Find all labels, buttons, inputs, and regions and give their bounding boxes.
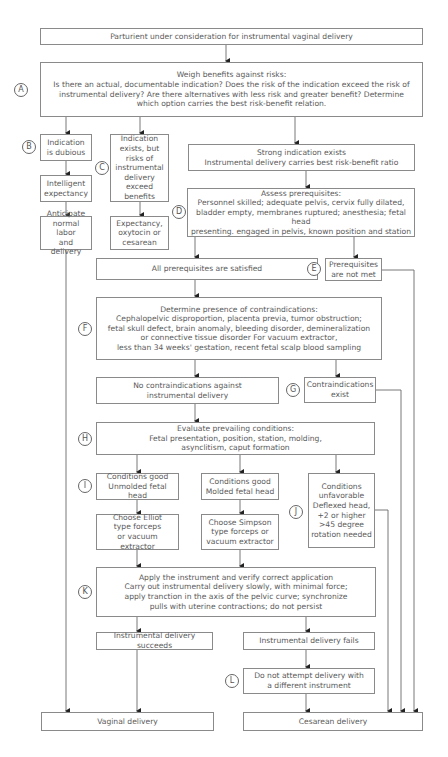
delivery-fails-box: Instrumental delivery fails [243, 632, 375, 650]
no-different-instrument-box: Do not attempt delivery with a different… [243, 668, 375, 694]
step-label-a: A [14, 83, 28, 97]
contraindications-check-box: Determine presence of contraindications:… [96, 297, 382, 360]
choose-elliot-box: Choose Elliot type forceps or vacuum ext… [96, 514, 179, 550]
step-label-b: B [22, 140, 36, 154]
delivery-succeeds-box: Instrumental delivery succeeds [96, 632, 213, 650]
step-label-k: K [78, 585, 92, 599]
no-contraindications-box: No contraindications against instrumenta… [96, 377, 279, 404]
start-box: Parturient under consideration for instr… [40, 28, 423, 45]
contraindications-exist-box: Contraindications exist [304, 377, 376, 403]
step-label-e: E [307, 262, 321, 276]
conditions-good-unmolded-box: Conditions good Unmolded fetal head [96, 473, 179, 500]
choose-simpson-box: Choose Simpson type forceps or vacuum ex… [201, 514, 279, 550]
step-label-c: C [95, 161, 109, 175]
step-label-j: J [289, 505, 303, 519]
evaluate-conditions-box: Evaluate prevailing conditions: Fetal pr… [96, 422, 375, 455]
expectancy-oxytocin-box: Expectancy, oxytocin or cesarean [110, 216, 169, 250]
step-label-l: L [225, 674, 239, 688]
step-label-h: H [78, 432, 92, 446]
step-label-g: G [286, 383, 300, 397]
intelligent-expectancy-box: Intelligent expectancy [40, 175, 92, 202]
apply-instrument-box: Apply the instrument and verify correct … [96, 567, 376, 617]
step-label-f: F [78, 322, 92, 336]
conditions-unfavorable-box: Conditions unfavorable Deflexed head, +2… [308, 473, 375, 548]
strong-indication-box: Strong indication exists Instrumental de… [188, 144, 415, 171]
weigh-benefits-box: Weigh benefits against risks: Is there a… [40, 62, 423, 117]
assess-prerequisites-box: Assess prerequisites: Personnel skilled;… [187, 188, 415, 237]
cesarean-delivery-box: Cesarean delivery [243, 712, 423, 731]
indication-exists-risks-box: Indication exists, but risks of instrume… [110, 134, 169, 202]
anticipate-normal-labor-box: Anticipate normal labor and delivery [40, 216, 92, 250]
step-label-d: D [172, 205, 186, 219]
vaginal-delivery-box: Vaginal delivery [41, 712, 214, 731]
step-label-i: I [78, 479, 92, 493]
prerequisites-not-met-box: Prerequisites are not met [325, 258, 382, 281]
prerequisites-satisfied-box: All prerequisites are satisfied [96, 258, 318, 280]
indication-dubious-box: Indication is dubious [40, 134, 92, 161]
conditions-good-molded-box: Conditions good Molded fetal head [201, 473, 279, 500]
